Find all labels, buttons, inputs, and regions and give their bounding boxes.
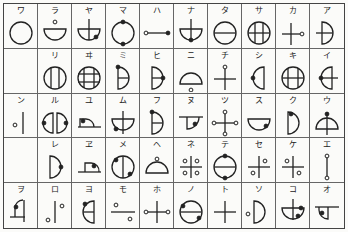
kana-label: フ <box>140 96 173 106</box>
cross-icon <box>210 196 240 226</box>
table-cell: ラ <box>38 4 72 49</box>
table-cell: ミ <box>106 49 140 94</box>
table-cell: ロ <box>38 183 72 228</box>
quarter-shape-line-dot-right-icon <box>74 151 104 181</box>
kana-label: モ <box>106 185 139 195</box>
kana-label: セ <box>242 140 275 150</box>
half-circle-bottom-dot-right-icon <box>244 107 274 137</box>
table-cell: ツ <box>208 94 242 139</box>
kana-label: ホ <box>140 185 173 195</box>
kana-label: ノ <box>174 185 207 195</box>
kana-label: レ <box>38 140 71 150</box>
half-circle-bottom-with-dot-above-icon <box>40 17 70 47</box>
kana-label: ヲ <box>4 185 37 195</box>
kana-label: ヤ <box>72 6 105 16</box>
table-cell: ホ <box>140 183 174 228</box>
table-cell: セ <box>242 138 276 183</box>
kana-label: メ <box>106 140 139 150</box>
half-circle-bottom-vertical-line-dot-right-icon <box>74 17 104 47</box>
horizontal-line-dots-both-ends-icon <box>142 17 172 47</box>
table-cell: モ <box>106 183 140 228</box>
half-circle-right-dot-top-icon <box>278 107 308 137</box>
table-cell <box>4 138 38 183</box>
kana-label: チ <box>208 51 241 61</box>
kana-label: カ <box>276 6 309 16</box>
kana-label: ツ <box>208 96 241 106</box>
circle-horizontal-dots-diagonal-icon <box>176 196 206 226</box>
table-cell: コ <box>276 183 310 228</box>
kana-symbol-table: ワラヤマハナタサカアリヰミヒニチシキインルユムフヌツスクウレヱメヘネテセケエヲロ… <box>3 3 345 229</box>
circle-dots-top-bottom-icon <box>108 17 138 47</box>
kana-label: ル <box>38 96 71 106</box>
table-cell: ユ <box>72 94 106 139</box>
kana-label: ケ <box>276 140 309 150</box>
table-cell: チ <box>208 49 242 94</box>
kana-label: ラ <box>38 6 71 16</box>
table-cell: ソ <box>242 183 276 228</box>
kana-label: ユ <box>72 96 105 106</box>
quarter-shape-left-dot-icon <box>6 196 36 226</box>
kana-label: ワ <box>4 6 37 16</box>
half-circle-right-horizontal-dot-top-icon <box>108 62 138 92</box>
table-cell: ヤ <box>72 4 106 49</box>
half-circle-left-horizontal-dot-left-icon <box>312 62 342 92</box>
vertical-line-dots-tr-bl-icon <box>40 196 70 226</box>
table-cell: ウ <box>310 94 344 139</box>
half-circle-right-horizontal-dot-right-icon <box>142 62 172 92</box>
kana-label: ヒ <box>140 51 173 61</box>
quarter-shape-down-dot-icon <box>176 107 206 137</box>
table-cell: ナ <box>174 4 208 49</box>
table-cell: レ <box>38 138 72 183</box>
table-cell: ン <box>4 94 38 139</box>
table-cell: エ <box>310 138 344 183</box>
table-cell: ア <box>310 4 344 49</box>
table-cell: ヰ <box>72 49 106 94</box>
quarter-shape-line-dot-icon <box>74 107 104 137</box>
circle-cross-grid-icon <box>278 62 308 92</box>
table-cell: シ <box>242 49 276 94</box>
table-cell <box>4 49 38 94</box>
vertical-line-dot-left-icon <box>6 107 36 137</box>
half-circle-bottom-vertical-line-dot-bottom-icon <box>176 17 206 47</box>
table-cell: リ <box>38 49 72 94</box>
half-circle-left-horizontal-dot-top-icon <box>74 196 104 226</box>
table-cell: ヲ <box>4 183 38 228</box>
table-cell: ケ <box>276 138 310 183</box>
kana-label: イ <box>310 51 344 61</box>
circle-two-verticals-icon <box>40 62 70 92</box>
cross-dots-left-right-icon <box>142 196 172 226</box>
table-cell: イ <box>310 49 344 94</box>
kana-label: ト <box>208 185 241 195</box>
kana-label: ナ <box>174 6 207 16</box>
kana-label: ク <box>276 96 309 106</box>
table-cell: ハ <box>140 4 174 49</box>
kana-label: ヘ <box>140 140 173 150</box>
table-cell: ヒ <box>140 49 174 94</box>
empty-icon <box>6 151 36 181</box>
kana-label: ヱ <box>72 140 105 150</box>
two-half-circles-dots-outside-icon <box>40 107 70 137</box>
circle-icon <box>6 17 36 47</box>
kana-label: ニ <box>174 51 207 61</box>
half-circle-top-vertical-dot-top-icon <box>312 107 342 137</box>
kana-label: エ <box>310 140 344 150</box>
kana-label: ヌ <box>174 96 207 106</box>
table-cell: ニ <box>174 49 208 94</box>
table-cell: ヨ <box>72 183 106 228</box>
half-circle-top-dot-top-icon <box>142 151 172 181</box>
table-cell: ト <box>208 183 242 228</box>
table-cell: ヘ <box>140 138 174 183</box>
kana-label: テ <box>208 140 241 150</box>
half-circle-top-dot-below-icon <box>176 62 206 92</box>
table-cell: ル <box>38 94 72 139</box>
table-cell: カ <box>276 4 310 49</box>
quarter-shape-down-line-dot-icon <box>312 196 342 226</box>
table-cell: サ <box>242 4 276 49</box>
table-cell: ス <box>242 94 276 139</box>
table-cell: ノ <box>174 183 208 228</box>
kana-label: ス <box>242 96 275 106</box>
half-circle-left-dot-left-icon <box>244 62 274 92</box>
kana-label: シ <box>242 51 275 61</box>
kana-label: ヨ <box>72 185 105 195</box>
table-cell: メ <box>106 138 140 183</box>
